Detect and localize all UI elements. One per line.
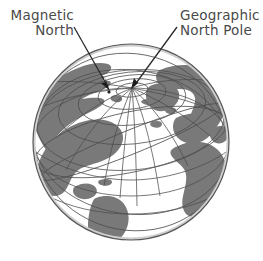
label-geographic-north-pole-line2: North Pole [180,23,260,38]
land-madagascar [218,192,230,205]
label-magnetic-north: Magnetic North [10,8,74,38]
diagram-canvas: Magnetic North Geographic North Pole [0,0,263,261]
label-magnetic-north-line1: Magnetic [10,8,74,23]
label-geographic-north-pole-line1: Geographic [180,8,260,23]
label-magnetic-north-line2: North [10,23,74,38]
earth-globe-polar-view [0,0,263,261]
magnetic-north-marker-dot [107,90,110,93]
label-geographic-north-pole: Geographic North Pole [180,8,260,38]
